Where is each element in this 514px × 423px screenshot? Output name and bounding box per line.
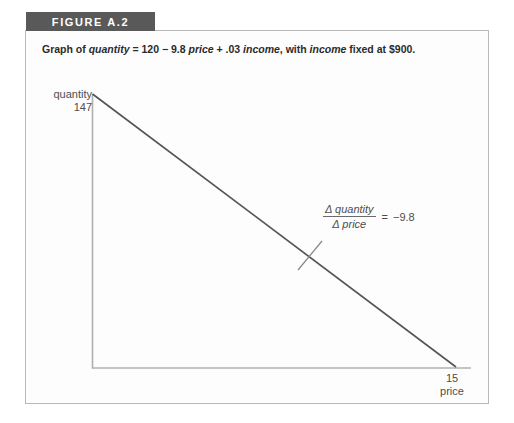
slope-value: −9.8 [393,211,415,223]
slope-leader-line [298,241,322,270]
demand-line [93,94,457,367]
chart-svg [26,31,490,405]
slope-denominator: Δ price [330,217,368,230]
figure-tab-label: FIGURE A.2 [26,16,155,28]
figure-frame: Graph of quantity = 120 − 9.8 price + .0… [25,30,489,404]
chart-plot-area: quantity 147 15 price Δ quantity Δ price… [26,31,490,405]
slope-fraction: Δ quantity Δ price [323,203,376,230]
y-axis-tick-147: 147 [34,101,92,114]
y-axis-name: quantity [34,88,92,101]
x-axis-label-group: 15 price [426,372,478,398]
x-axis-name: price [426,385,478,398]
x-axis-tick-15: 15 [426,372,478,385]
figure-tab: FIGURE A.2 [26,12,155,31]
slope-equals-sign: = [382,211,388,223]
slope-annotation: Δ quantity Δ price = −9.8 [323,203,415,230]
y-axis-label-group: quantity 147 [34,88,92,114]
slope-numerator: Δ quantity [323,203,376,217]
